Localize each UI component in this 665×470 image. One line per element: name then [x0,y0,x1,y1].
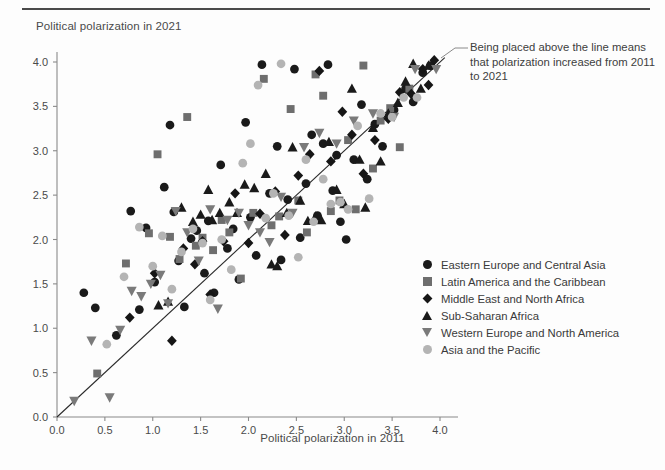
data-point [260,75,268,83]
data-point [213,305,223,314]
series-diamond-2 [125,55,439,346]
data-point [293,170,303,180]
data-point [217,235,226,244]
data-point [122,260,130,268]
y-tick-label: 4.0 [33,56,48,68]
y-tick-label: 0.0 [33,411,48,423]
data-point [378,142,387,151]
data-point [135,223,144,232]
data-point [148,262,157,271]
data-point [166,121,175,130]
data-point [342,235,351,244]
legend-item-4[interactable]: Western Europe and North America [418,324,619,341]
square-marker-icon [418,273,436,290]
data-point [196,209,206,218]
data-point [230,188,240,198]
data-point [273,142,282,151]
data-point [203,185,213,194]
data-point [198,239,207,248]
y-tick-label: 0.5 [33,367,48,379]
data-point [275,212,283,220]
data-point [238,159,247,168]
series-circle-0 [79,60,434,339]
diamond-marker-icon [418,290,436,307]
data-point [255,228,265,237]
data-point [93,370,101,378]
data-point [180,303,189,312]
data-point [237,275,245,283]
data-point [254,81,263,90]
annotation-text: Being placed above the line means that p… [470,40,660,84]
legend: Eastern Europe and Central AsiaLatin Ame… [418,256,619,358]
x-axis-title: Political polarization in 2011 [0,432,665,444]
legend-item-label: Western Europe and North America [441,327,619,339]
data-point [332,151,341,160]
data-point [376,109,385,118]
data-point [249,183,259,192]
data-point [136,292,146,301]
legend-item-label: Latin America and the Caribbean [441,276,606,288]
data-point [299,143,309,152]
data-point [246,139,255,148]
data-point [86,336,96,345]
data-point [227,265,236,274]
circle-marker-icon [418,256,436,273]
circle-marker-icon [418,341,436,358]
data-point [126,207,135,216]
data-point [337,106,347,116]
legend-item-0[interactable]: Eastern Europe and Central Asia [418,256,619,273]
y-tick-label: 2.5 [33,189,48,201]
data-point [269,189,278,198]
data-point [241,118,250,127]
legend-item-label: Middle East and North Africa [441,293,584,305]
data-point [288,142,298,151]
data-point [145,229,153,237]
data-point [224,197,234,206]
data-point [294,253,303,262]
legend-item-label: Asia and the Pacific [441,344,540,356]
data-point [336,198,345,207]
data-point [135,305,144,314]
data-point [183,113,191,121]
data-point [396,143,404,151]
data-point [166,233,174,241]
data-point [215,208,225,217]
series-triangle-up-3 [153,59,433,310]
legend-item-3[interactable]: Sub-Saharan Africa [418,307,619,324]
data-point [258,60,267,69]
data-point [120,272,129,281]
data-point [280,230,290,240]
data-point [307,130,316,139]
data-point [309,217,318,226]
data-point [336,217,345,226]
data-point [360,202,370,211]
legend-item-2[interactable]: Middle East and North Africa [418,290,619,307]
data-point [153,300,163,309]
data-point [125,312,135,322]
data-point [319,175,328,184]
data-point [209,246,217,254]
data-point [290,65,299,74]
data-point [206,295,215,304]
data-point [268,221,276,229]
data-point [388,113,397,122]
legend-item-5[interactable]: Asia and the Pacific [418,341,619,358]
data-point [158,232,167,241]
data-point [283,195,292,204]
legend-item-1[interactable]: Latin America and the Caribbean [418,273,619,290]
triangle-up-marker-icon [418,307,436,324]
data-point [265,238,275,247]
data-point [376,156,386,165]
data-point [189,224,198,233]
data-point [243,221,253,230]
data-point [370,135,380,145]
data-point [369,165,377,173]
y-tick-label: 3.5 [33,100,48,112]
legend-item-label: Eastern Europe and Central Asia [441,259,606,271]
data-point [332,139,342,148]
data-point [225,228,233,236]
data-point [400,76,410,85]
data-point [353,122,362,131]
y-tick-label: 3.0 [33,145,48,157]
data-point [168,285,177,294]
